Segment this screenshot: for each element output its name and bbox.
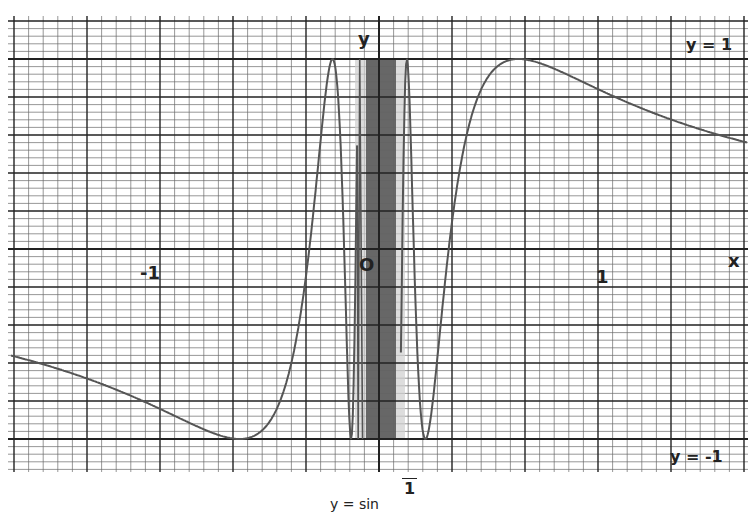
- caption-text: y = sin: [330, 496, 379, 512]
- caption-fraction-numerator: 1: [402, 478, 417, 498]
- x-tick-neg-one: -1: [140, 262, 160, 283]
- label-y-equals-1: y = 1: [686, 35, 732, 54]
- label-y-equals-neg1: y = -1: [670, 447, 723, 466]
- x-tick-pos-one: 1: [596, 266, 609, 287]
- y-axis-label: y: [358, 28, 370, 49]
- grid-major: [8, 16, 748, 472]
- x-axis-label: x: [728, 250, 740, 271]
- origin-label: O: [359, 254, 374, 275]
